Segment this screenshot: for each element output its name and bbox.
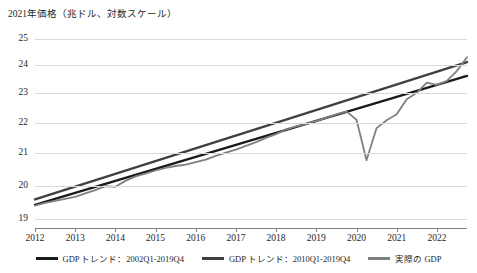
gridline bbox=[35, 39, 467, 40]
y-tick-label: 20 bbox=[0, 180, 28, 190]
x-tick-label: 2019 bbox=[296, 233, 336, 243]
x-tick-label: 2016 bbox=[176, 233, 216, 243]
plot-area bbox=[35, 28, 467, 228]
chart-container: 2021年価格（兆ドル、対数スケール） 19202122232425 20122… bbox=[0, 0, 477, 273]
x-axis-line bbox=[35, 228, 467, 229]
legend-item[interactable]: GDP トレンド：2010Q1-2019Q4 bbox=[202, 252, 350, 264]
legend-color-swatch bbox=[202, 257, 224, 260]
x-tick-mark bbox=[357, 228, 358, 232]
legend-label: GDP トレンド：2010Q1-2019Q4 bbox=[229, 252, 350, 264]
x-tick-mark bbox=[236, 228, 237, 232]
x-tick-label: 2020 bbox=[337, 233, 377, 243]
series-line bbox=[35, 62, 467, 199]
x-tick-mark bbox=[156, 228, 157, 232]
series-lines bbox=[35, 28, 467, 228]
x-tick-label: 2022 bbox=[417, 233, 457, 243]
legend-item[interactable]: GDP トレンド：2002Q1-2019Q4 bbox=[36, 252, 184, 264]
x-tick-mark bbox=[437, 228, 438, 232]
x-tick-label: 2013 bbox=[55, 233, 95, 243]
x-tick-label: 2014 bbox=[95, 233, 135, 243]
legend-label: 実際の GDP bbox=[395, 252, 441, 264]
chart-axis-title: 2021年価格（兆ドル、対数スケール） bbox=[8, 6, 177, 20]
gridline bbox=[35, 219, 467, 220]
x-tick-mark bbox=[115, 228, 116, 232]
y-tick-label: 25 bbox=[0, 33, 28, 43]
x-tick-mark bbox=[196, 228, 197, 232]
gridline bbox=[35, 123, 467, 124]
x-tick-mark bbox=[276, 228, 277, 232]
x-tick-label: 2012 bbox=[15, 233, 55, 243]
x-tick-mark bbox=[75, 228, 76, 232]
y-tick-label: 21 bbox=[0, 147, 28, 157]
legend-label: GDP トレンド：2002Q1-2019Q4 bbox=[63, 252, 184, 264]
gridline bbox=[35, 93, 467, 94]
legend-color-swatch bbox=[36, 257, 58, 260]
y-tick-label: 19 bbox=[0, 213, 28, 223]
x-tick-mark bbox=[397, 228, 398, 232]
x-tick-mark bbox=[35, 228, 36, 232]
chart-legend: GDP トレンド：2002Q1-2019Q4GDP トレンド：2010Q1-20… bbox=[0, 251, 477, 265]
x-tick-label: 2018 bbox=[256, 233, 296, 243]
x-tick-label: 2017 bbox=[216, 233, 256, 243]
x-tick-mark bbox=[316, 228, 317, 232]
gridline bbox=[35, 65, 467, 66]
x-tick-label: 2021 bbox=[377, 233, 417, 243]
legend-color-swatch bbox=[368, 257, 390, 260]
y-tick-label: 24 bbox=[0, 59, 28, 69]
legend-item[interactable]: 実際の GDP bbox=[368, 252, 441, 264]
x-tick-label: 2015 bbox=[136, 233, 176, 243]
gridline bbox=[35, 186, 467, 187]
gridline bbox=[35, 153, 467, 154]
y-tick-label: 23 bbox=[0, 87, 28, 97]
y-tick-label: 22 bbox=[0, 117, 28, 127]
